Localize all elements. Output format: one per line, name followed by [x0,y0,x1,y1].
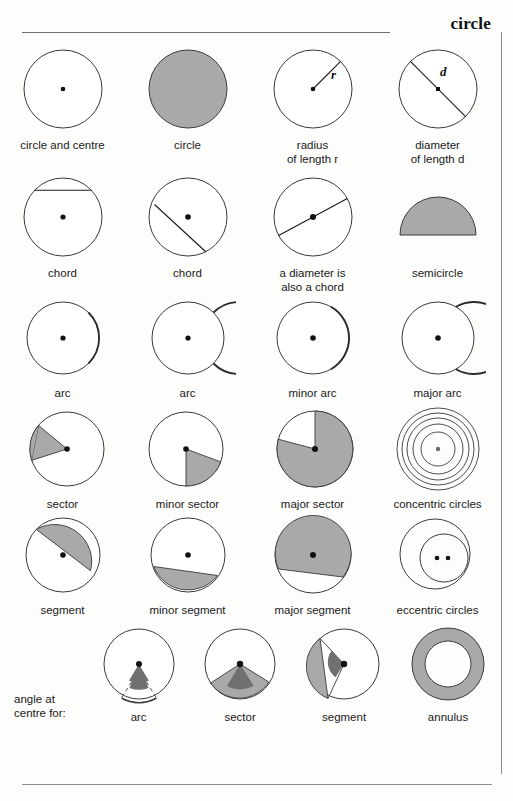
figure-grid: circle and centre circle r radius of len… [0,44,513,724]
angle-at-centre-segment-figure [298,624,390,708]
caption: minor segment [149,604,225,618]
caption: circle [174,139,201,153]
caption: major arc [414,387,462,401]
caption: sector [47,498,78,512]
circle-with-sector-figure [15,407,111,495]
figure-cell-major-segment: major segment [250,513,375,618]
filled-semicircle-figure [390,172,486,264]
circle-with-minor-sector-figure [140,407,236,495]
caption: concentric circles [393,498,481,512]
figure-cell-eccentric-circles: eccentric circles [375,513,500,618]
figure-cell-diameter-chord: a diameter is also a chord [250,172,375,294]
page-header: circle [0,10,513,44]
figure-cell-circle-filled: circle [125,44,250,166]
circle-with-arc-highlight-large-figure [140,296,236,384]
circle-with-radius-figure: r [265,44,361,136]
circle-with-diameter-chord-figure [265,172,361,264]
figure-cell-angle-segment: segment [292,624,396,725]
annulus-figure [402,624,494,708]
figure-cell-arc-1: arc [0,296,125,401]
figure-cell-minor-arc: minor arc [250,296,375,401]
circle-with-major-segment-figure [265,513,361,601]
angle-at-centre-arc-figure [93,624,185,708]
caption: eccentric circles [397,604,479,618]
figure-cell-semicircle: semicircle [375,172,500,294]
row-angle-at-centre: angle at centre for: arc [0,624,500,725]
header-rule [22,32,390,33]
figure-cell-chord-diagonal: chord [125,172,250,294]
figure-cell-minor-segment: minor segment [125,513,250,618]
caption: sector [224,711,255,725]
circle-with-diameter-figure: d [390,44,486,136]
caption: arc [131,711,147,725]
row-basics: circle and centre circle r radius of len… [0,44,500,166]
figure-cell-angle-arc: arc [89,624,188,725]
caption: minor sector [156,498,219,512]
circle-with-horizontal-chord-figure [15,172,111,264]
figure-cell-diameter: d diameter of length d [375,44,500,166]
caption: a diameter is also a chord [280,267,346,294]
figure-cell-angle-sector: sector [188,624,292,725]
circle-diagram-page: circle circle and centre circle [0,0,513,801]
figure-cell-radius: r radius of length r [250,44,375,166]
angle-at-centre-label: angle at centre for: [14,692,66,720]
bottom-edge-rule [22,784,492,785]
concentric-circles-figure [390,407,486,495]
figure-cell-major-sector: major sector [250,407,375,512]
caption: chord [48,267,77,281]
figure-cell-minor-sector: minor sector [125,407,250,512]
circle-with-diagonal-chord-figure [140,172,236,264]
figure-cell-segment: segment [0,513,125,618]
eccentric-circles-figure [390,513,486,601]
diameter-label: d [440,64,447,79]
caption: minor arc [289,387,337,401]
figure-cell-chord-horizontal: chord [0,172,125,294]
caption: circle and centre [20,139,104,153]
row-segments: segment minor segment major segment [0,513,500,618]
caption: major sector [281,498,344,512]
angle-at-centre-sector-figure [194,624,286,708]
circle-with-minor-arc-figure [265,296,361,384]
circle-with-minor-segment-figure [140,513,236,601]
caption: major segment [274,604,350,618]
figure-cell-circle-and-centre: circle and centre [0,44,125,166]
circle-with-arc-highlight-small-figure [15,296,111,384]
caption: radius of length r [287,139,338,166]
caption: chord [173,267,202,281]
caption: segment [322,711,366,725]
row-sectors: sector minor sector major sector [0,407,500,512]
figure-cell-sector: sector [0,407,125,512]
caption: segment [40,604,84,618]
row-arcs: arc arc minor arc [0,296,500,401]
caption: diameter of length d [411,139,465,166]
figure-cell-major-arc: major arc [375,296,500,401]
figure-cell-concentric-circles: concentric circles [375,407,500,512]
caption: semicircle [412,267,463,281]
figure-cell-annulus: annulus [396,624,500,725]
circle-with-major-sector-figure [265,407,361,495]
row-chords: chord chord a diameter is also a chord [0,172,500,294]
caption: arc [180,387,196,401]
figure-cell-arc-2: arc [125,296,250,401]
circle-with-centre-dot-figure [15,44,111,136]
filled-circle-figure [140,44,236,136]
caption: annulus [428,711,468,725]
circle-with-major-arc-figure [390,296,486,384]
page-title: circle [450,14,491,34]
caption: arc [55,387,71,401]
circle-with-segment-figure [15,513,111,601]
